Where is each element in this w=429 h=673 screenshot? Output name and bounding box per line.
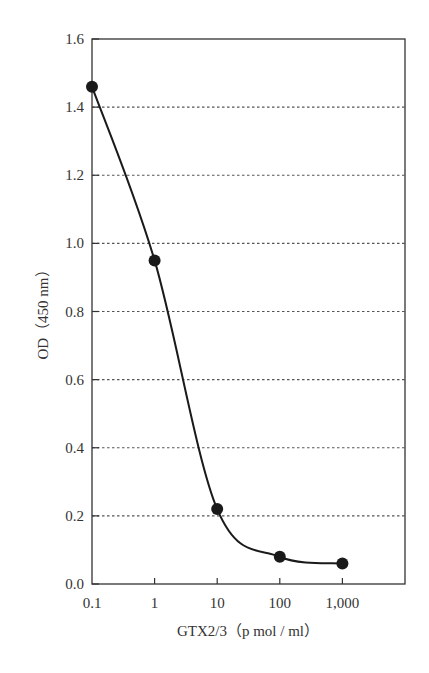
y-tick-label: 1.6 — [65, 31, 84, 47]
y-tick-label: 1.4 — [65, 99, 84, 115]
chart: 0.00.20.40.60.81.01.21.41.6 0.11101001,0… — [0, 0, 429, 673]
x-tick-label: 0.1 — [83, 595, 102, 611]
x-tick-label: 1 — [151, 595, 159, 611]
data-points — [86, 81, 348, 570]
y-axis-title: OD（450 nm） — [35, 262, 51, 359]
x-tick-label: 1,000 — [326, 595, 360, 611]
x-axis: 0.11101001,000 — [83, 578, 360, 611]
y-tick-label: 1.2 — [65, 167, 84, 183]
x-tick-label: 100 — [269, 595, 292, 611]
x-axis-title: GTX2/3（p mol / ml） — [177, 623, 319, 639]
y-tick-label: 0.6 — [65, 372, 84, 388]
y-tick-label: 0.0 — [65, 576, 84, 592]
gridlines — [92, 107, 405, 516]
y-tick-label: 0.4 — [65, 440, 84, 456]
data-point — [211, 503, 223, 515]
data-point — [336, 558, 348, 570]
y-tick-label: 0.8 — [65, 304, 84, 320]
fitted-curve — [92, 87, 342, 564]
data-point — [274, 551, 286, 563]
y-tick-label: 0.2 — [65, 508, 84, 524]
y-tick-label: 1.0 — [65, 235, 84, 251]
y-axis: 0.00.20.40.60.81.01.21.41.6 — [65, 31, 99, 592]
x-tick-label: 10 — [210, 595, 225, 611]
data-point — [149, 254, 161, 266]
data-point — [86, 81, 98, 93]
